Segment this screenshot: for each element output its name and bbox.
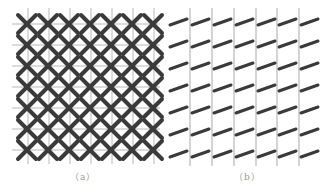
panel-b-label: （b） [234, 170, 261, 183]
panel-a-crossed-lattice [12, 8, 162, 164]
panel-a-label: （a） [70, 170, 96, 183]
figure-canvas [0, 0, 325, 191]
panel-b-tilted-dash-lattice [170, 8, 318, 166]
lattice-figure: （a） （b） [0, 0, 325, 191]
